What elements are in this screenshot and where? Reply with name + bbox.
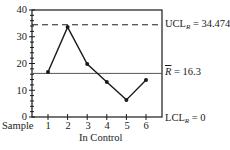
x-tick-label-1: 1 <box>41 121 55 132</box>
lcl-label-value: = 0 <box>189 112 205 123</box>
lcl-label: LCLR = 0 <box>165 113 206 125</box>
data-point-marker <box>46 70 50 74</box>
y-tick-label-10: 10 <box>7 86 27 97</box>
ucl-label-value: = 34.4745 <box>190 18 230 29</box>
control-limit-lines <box>32 25 162 74</box>
y-axis-ticks <box>29 10 35 117</box>
lcl-label-main: LCL <box>165 112 185 123</box>
x-tick-label-5: 5 <box>120 121 134 132</box>
x-tick-label-2: 2 <box>61 121 75 132</box>
data-point-marker <box>85 62 89 66</box>
data-point-marker <box>105 80 109 84</box>
y-tick-label-40: 40 <box>7 5 27 16</box>
x-axis-prefix-label: Sample <box>2 121 34 132</box>
data-point-marker <box>124 98 128 102</box>
x-tick-label-6: 6 <box>139 121 153 132</box>
x-tick-label-3: 3 <box>81 121 95 132</box>
data-point-marker <box>144 78 148 82</box>
data-series <box>46 25 148 102</box>
ucl-label: UCLR = 34.4745 <box>165 19 230 31</box>
y-tick-label-20: 20 <box>7 59 27 70</box>
rbar-label: R = 16.3 <box>165 67 201 78</box>
x-axis-title: In Control <box>79 133 122 144</box>
range-series-line <box>48 27 146 100</box>
x-tick-label-4: 4 <box>100 121 114 132</box>
rbar-label-value: = 16.3 <box>171 66 201 77</box>
ucl-label-main: UCL <box>165 18 186 29</box>
data-point-marker <box>66 25 70 29</box>
y-tick-label-30: 30 <box>7 32 27 43</box>
